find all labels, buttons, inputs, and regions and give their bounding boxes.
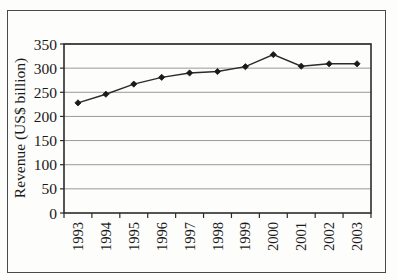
y-axis-tick-label: 300 [34, 60, 58, 77]
y-axis-tick-labels: 050100150200250300350 [34, 36, 58, 222]
x-axis-tick-label: 1996 [154, 222, 170, 251]
x-axis-tick-label: 2002 [321, 222, 337, 251]
x-axis-tick-labels: 1993199419951996199719981999200020012002… [70, 221, 365, 251]
y-axis-tick-label: 250 [34, 84, 58, 101]
y-axis-tick-label: 200 [34, 108, 58, 125]
x-axis-tick-label: 1999 [237, 222, 253, 251]
chart-figure: 050100150200250300350 199319941995199619… [0, 0, 397, 280]
y-axis-tick-label: 0 [49, 205, 57, 222]
y-axis-tick-label: 100 [34, 156, 58, 173]
x-axis-tick-label: 1994 [98, 221, 114, 251]
x-axis-tick-label: 2003 [349, 222, 365, 251]
y-axis-tick-label: 150 [34, 132, 58, 149]
x-axis-tick-label: 1998 [210, 222, 226, 251]
y-axis-tick-label: 350 [34, 36, 58, 53]
y-axis-title: Revenue (US$ billion) [11, 58, 29, 198]
x-axis-tick-label: 2000 [265, 222, 281, 251]
x-axis-tick-label: 1997 [182, 222, 198, 251]
x-axis-tick-label: 1995 [126, 222, 142, 251]
x-axis-tick-label: 2001 [293, 222, 309, 251]
revenue-line-chart: 050100150200250300350 199319941995199619… [0, 0, 397, 280]
y-axis-tick-label: 50 [42, 180, 58, 197]
x-axis-tick-label: 1993 [70, 222, 86, 251]
